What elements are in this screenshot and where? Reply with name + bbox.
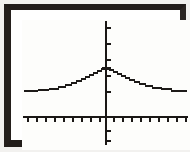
- x-axis-tick: [185, 118, 187, 122]
- y-axis-tick: [107, 59, 111, 61]
- x-axis-tick: [131, 118, 133, 122]
- curve-segment: [58, 86, 66, 88]
- x-axis-tick: [45, 118, 47, 122]
- y-axis-tick: [107, 43, 111, 45]
- x-axis-tick: [122, 118, 124, 122]
- curve-segment: [76, 80, 82, 82]
- x-axis-tick: [72, 118, 74, 122]
- curve-segment: [85, 76, 90, 78]
- curve-segment: [24, 90, 38, 92]
- x-axis-tick: [167, 118, 169, 122]
- calculator-screenshot: [0, 0, 190, 152]
- x-axis-tick: [90, 118, 92, 122]
- y-axis: [105, 21, 107, 145]
- lcd-plot-area: [22, 20, 190, 150]
- y-axis-tick: [107, 130, 111, 132]
- x-axis-tick: [36, 118, 38, 122]
- curve-segment: [171, 90, 187, 92]
- y-axis-tick: [107, 140, 111, 142]
- x-axis-tick: [176, 118, 178, 122]
- curve-segment: [71, 82, 77, 84]
- x-axis-tick: [140, 118, 142, 122]
- x-axis-tick: [54, 118, 56, 122]
- curve-segment: [89, 74, 94, 76]
- y-axis-tick: [107, 75, 111, 77]
- curve-segment: [97, 70, 102, 72]
- curve-segment: [38, 89, 49, 91]
- x-axis-tick: [158, 118, 160, 122]
- y-axis-tick: [107, 27, 111, 29]
- curve-segment: [81, 78, 86, 80]
- x-axis-tick: [27, 118, 29, 122]
- screen-bezel: [4, 4, 186, 147]
- x-axis-tick: [63, 118, 65, 122]
- x-axis-tick: [81, 118, 83, 122]
- x-axis-tick: [113, 118, 115, 122]
- x-axis: [23, 116, 188, 118]
- y-axis-tick: [107, 91, 111, 93]
- curve-segment: [49, 88, 59, 90]
- curve-segment: [65, 84, 72, 86]
- x-axis-tick: [99, 118, 101, 122]
- curve-segment: [93, 72, 98, 74]
- x-axis-tick: [149, 118, 151, 122]
